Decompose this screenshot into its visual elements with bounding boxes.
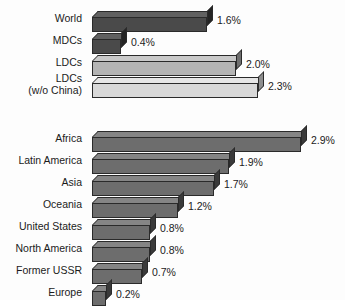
bar-row: United States0.8% — [0, 216, 345, 238]
bar-row: LDCs2.0% — [0, 52, 345, 74]
category-label: LDCs (w/o China) — [0, 73, 82, 96]
bar — [92, 153, 229, 169]
bar-value-label: 0.4% — [131, 36, 155, 49]
bar-row: Former USSR0.7% — [0, 260, 345, 282]
bar-end-face — [150, 213, 156, 234]
bar-end-face — [121, 27, 127, 48]
bar — [92, 175, 214, 191]
bar-value-label: 2.9% — [311, 134, 335, 147]
category-label: LDCs — [0, 57, 82, 69]
bar-row: Africa2.9% — [0, 128, 345, 150]
category-label: MDCs — [0, 35, 82, 47]
bar-group-regions: Africa2.9%Latin America1.9%Asia1.7%Ocean… — [0, 128, 345, 300]
bar-end-face — [258, 71, 264, 92]
bar-end-face — [178, 191, 184, 212]
category-label: Asia — [0, 177, 82, 189]
bar-value-label: 1.6% — [217, 14, 241, 27]
bar-value-label: 2.3% — [268, 80, 292, 93]
bar-row: Europe0.2% — [0, 282, 345, 304]
bar-value-label: 1.9% — [239, 156, 263, 169]
bar-row: Latin America1.9% — [0, 150, 345, 172]
bar-row: LDCs (w/o China)2.3% — [0, 74, 345, 96]
bar-end-face — [301, 125, 307, 146]
bar — [92, 11, 207, 27]
bar — [92, 33, 121, 49]
bar-value-label: 0.8% — [160, 244, 184, 257]
bar — [92, 241, 150, 257]
category-label: Africa — [0, 133, 82, 145]
bar-front-face — [92, 291, 106, 306]
category-label: Oceania — [0, 199, 82, 211]
bar-end-face — [106, 279, 112, 300]
bar-row: Asia1.7% — [0, 172, 345, 194]
bar — [92, 197, 178, 213]
bar — [92, 219, 150, 235]
category-label: World — [0, 13, 82, 25]
bar-row: MDCs0.4% — [0, 30, 345, 52]
bar — [92, 285, 106, 301]
bar-value-label: 1.2% — [188, 200, 212, 213]
bar-end-face — [236, 49, 242, 70]
bar — [92, 131, 301, 147]
bar-value-label: 0.7% — [152, 266, 176, 279]
bar-end-face — [207, 5, 213, 26]
bar-row: World1.6% — [0, 8, 345, 30]
category-label: United States — [0, 221, 82, 233]
bar-value-label: 2.0% — [246, 58, 270, 71]
bar-value-label: 0.2% — [116, 288, 140, 301]
bar-front-face — [92, 83, 258, 98]
bar-end-face — [214, 169, 220, 190]
bar — [92, 55, 236, 71]
bar-end-face — [229, 147, 235, 168]
bar-row: North America0.8% — [0, 238, 345, 260]
category-label: Europe — [0, 287, 82, 299]
category-label: Former USSR — [0, 265, 82, 277]
bar-end-face — [150, 235, 156, 256]
bar — [92, 263, 142, 279]
category-label: Latin America — [0, 155, 82, 167]
bar — [92, 77, 258, 93]
bar-group-global-aggregates: World1.6%MDCs0.4%LDCs2.0%LDCs (w/o China… — [0, 0, 345, 112]
category-label: North America — [0, 243, 82, 255]
bar-row: Oceania1.2% — [0, 194, 345, 216]
bar-end-face — [142, 257, 148, 278]
bar-value-label: 1.7% — [224, 178, 248, 191]
bar-value-label: 0.8% — [160, 222, 184, 235]
